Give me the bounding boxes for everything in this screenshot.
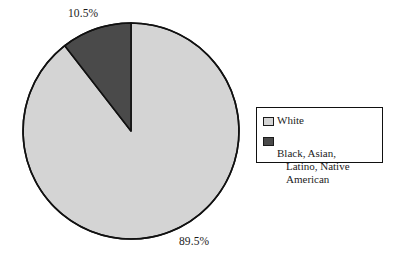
- legend-swatch-minority-icon: [263, 137, 274, 146]
- legend-item-minority[interactable]: Black, Asian, Latino, Native American: [263, 134, 382, 199]
- legend-label-white: White: [277, 114, 304, 127]
- legend-label-minority-line1: Black, Asian,: [277, 147, 336, 159]
- pie-label-minority-percent: 10.5%: [68, 7, 98, 19]
- legend-label-minority-line2: Latino, Native American: [277, 160, 382, 186]
- legend-item-white[interactable]: White: [263, 114, 382, 127]
- legend-label-minority: Black, Asian, Latino, Native American: [277, 134, 382, 199]
- legend-swatch-white-icon: [263, 117, 274, 126]
- pie-chart-figure: 10.5% 89.5% White Black, Asian, Latino, …: [0, 0, 399, 260]
- chart-legend: White Black, Asian, Latino, Native Ameri…: [256, 107, 383, 163]
- legend-entry-list: White Black, Asian, Latino, Native Ameri…: [257, 108, 382, 162]
- pie-label-white-percent: 89.5%: [179, 235, 209, 247]
